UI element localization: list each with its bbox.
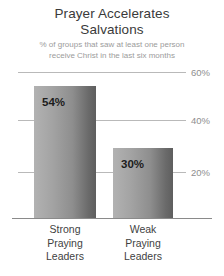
category-label-strong-line-2: Praying [25, 237, 105, 251]
category-label-weak-line-3: Leaders [103, 250, 183, 264]
bar-value-weak: 30% [121, 158, 144, 170]
category-label-weak-line-2: Praying [103, 237, 183, 251]
category-label-weak-line-1: Weak [103, 223, 183, 237]
gridline-60-overlay [96, 72, 186, 73]
y-tick-label-60: 60% [191, 67, 210, 78]
plot-area: 54% 30% 60% 40% 20% Strong Praying Leade… [0, 0, 224, 276]
y-tick-label-20: 20% [191, 167, 210, 178]
x-axis-line [12, 218, 212, 219]
category-label-weak: Weak Praying Leaders [103, 223, 183, 264]
bar-value-strong: 54% [42, 96, 65, 108]
bar-chart: Prayer Accelerates Salvations % of group… [0, 0, 224, 276]
category-label-strong-line-1: Strong [25, 223, 105, 237]
gridline-40-overlay [96, 120, 186, 121]
gridline-20-gap [96, 172, 113, 173]
category-label-strong: Strong Praying Leaders [25, 223, 105, 264]
gridline-20-overlay [173, 172, 186, 173]
category-label-strong-line-3: Leaders [25, 250, 105, 264]
y-tick-label-40: 40% [191, 115, 210, 126]
